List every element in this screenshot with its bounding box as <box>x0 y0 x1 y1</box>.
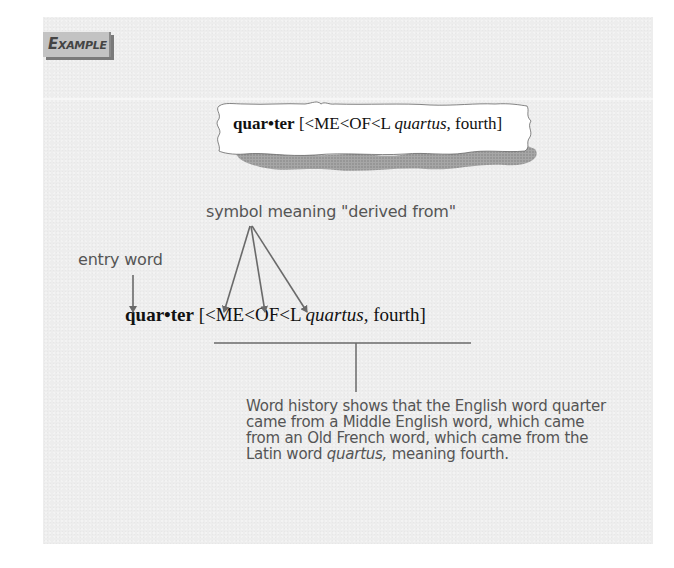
annotation-arrows <box>0 0 674 568</box>
explanation-line: came from a Middle English word, which c… <box>246 414 646 430</box>
explanation-line: Word history shows that the English word… <box>246 398 646 414</box>
arrow-to-l-icon <box>252 226 307 312</box>
explanation-line: from an Old French word, which came from… <box>246 430 646 446</box>
word-history-explanation: Word history shows that the English word… <box>246 398 646 462</box>
arrow-to-of-icon <box>251 226 265 312</box>
explanation-line4-post: meaning fourth. <box>387 445 509 463</box>
explanation-line: Latin word quartus, meaning fourth. <box>246 446 646 462</box>
explanation-line4-pre: Latin word <box>246 445 327 463</box>
explanation-line4-latin: quartus, <box>327 445 387 463</box>
arrow-to-me-icon <box>224 226 250 312</box>
